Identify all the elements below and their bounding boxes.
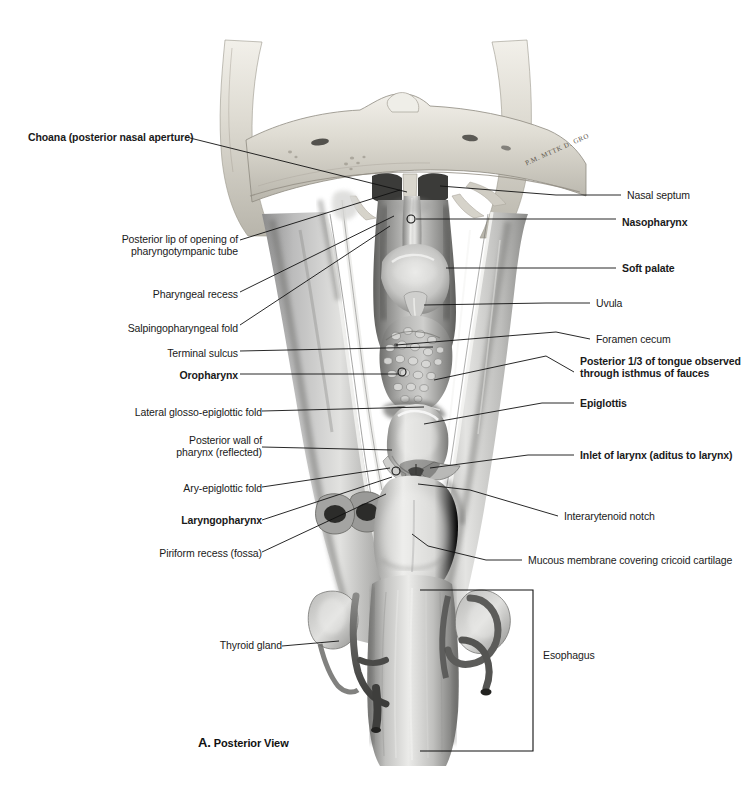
artist-signature: P.M. MTTK D. GRO (524, 132, 590, 167)
leader-lines (0, 0, 748, 792)
leader-pharyngotympanic (240, 190, 400, 240)
soft-palate-group (381, 244, 450, 322)
leader-posterior-wall (262, 447, 392, 450)
anatomy-plate: Choana (posterior nasal aperture) Poster… (0, 0, 748, 792)
marker-laryngopharynx (392, 467, 400, 475)
label-ary-epiglottic-fold[interactable]: Ary-epiglottic fold (152, 482, 262, 494)
leader-laryngopharynx (262, 477, 392, 520)
label-lateral-glosso-epiglottic-fold[interactable]: Lateral glosso-epiglottic fold (118, 406, 262, 418)
tongue-group (380, 316, 453, 412)
leader-posterior-third-inner (434, 356, 546, 380)
marker-nasopharynx (407, 215, 415, 223)
leader-uvula-inner (424, 303, 546, 305)
leader-mucous-membrane-tick (412, 534, 428, 546)
leader-lateral-glosso (262, 407, 424, 411)
vallecula-group (380, 400, 446, 420)
skull-base-group (220, 40, 586, 238)
laryngeal-inlet-group (383, 456, 460, 486)
label-pharyngeal-recess[interactable]: Pharyngeal recess (118, 288, 238, 300)
label-thyroid-gland[interactable]: Thyroid gland (198, 639, 282, 651)
caption-letter: A. (198, 735, 211, 750)
label-soft-palate[interactable]: Soft palate (622, 262, 675, 274)
label-uvula[interactable]: Uvula (596, 297, 622, 309)
caption-text: Posterior View (211, 737, 289, 749)
marker-oropharynx (398, 368, 406, 376)
label-pharyngotympanic-tube[interactable]: Posterior lip of opening of pharyngotymp… (112, 233, 238, 258)
leader-nasal-septum-inner (440, 186, 556, 195)
leader-interarytenoid (470, 490, 558, 516)
label-salpingopharyngeal-fold[interactable]: Salpingopharyngeal fold (98, 322, 238, 334)
leader-terminal-sulcus (240, 347, 433, 351)
leader-foramen-cecum-inner (396, 332, 556, 345)
label-mucous-membrane-cricoid[interactable]: Mucous membrane covering cricoid cartila… (528, 554, 732, 566)
label-piriform-recess[interactable]: Piriform recess (fossa) (128, 547, 262, 559)
leader-ary-epiglottic (262, 468, 390, 487)
label-choana[interactable]: Choana (posterior nasal aperture) (28, 131, 186, 143)
leader-choana (186, 137, 407, 192)
label-foramen-cecum[interactable]: Foramen cecum (596, 333, 671, 345)
salpingopharyngeal-fold-group (320, 190, 382, 490)
leader-mucous-membrane-inner (428, 546, 486, 560)
leader-pharyngeal-recess (240, 216, 394, 292)
epiglottis-group (387, 404, 448, 479)
label-terminal-sulcus[interactable]: Terminal sulcus (128, 347, 238, 359)
pharynx-illustration (0, 0, 748, 792)
lower-tract-group (308, 575, 510, 766)
plate-caption: A. Posterior View (198, 735, 289, 750)
label-laryngopharynx[interactable]: Laryngopharynx (152, 514, 262, 526)
leader-thyroid-gland (282, 641, 339, 646)
cricoid-group (374, 476, 458, 601)
leader-salpingopharyngeal (240, 226, 390, 325)
leader-interarytenoid-inner (418, 484, 470, 490)
pharyngeal-wall-group (262, 212, 528, 656)
label-nasopharynx[interactable]: Nasopharynx (622, 216, 687, 228)
label-inlet-of-larynx[interactable]: Inlet of larynx (aditus to larynx) (580, 449, 732, 461)
leader-piriform (262, 494, 386, 552)
leader-epiglottis-inner (424, 403, 542, 424)
label-interarytenoid-notch[interactable]: Interarytenoid notch (564, 510, 655, 522)
label-oropharynx[interactable]: Oropharynx (148, 369, 238, 381)
esophagus-bracket (420, 590, 533, 751)
label-esophagus[interactable]: Esophagus (543, 649, 595, 661)
label-nasal-septum[interactable]: Nasal septum (627, 189, 690, 201)
label-epiglottis[interactable]: Epiglottis (580, 397, 627, 409)
nasopharynx-group (373, 196, 456, 366)
leader-posterior-third (546, 356, 574, 372)
piriform-recess-group (316, 480, 463, 534)
label-posterior-third-of-tongue[interactable]: Posterior 1/3 of tongue observed through… (580, 355, 746, 380)
leader-foramen-cecum (556, 332, 590, 339)
leader-inlet-inner (430, 455, 528, 468)
label-posterior-wall-of-pharynx[interactable]: Posterior wall of pharynx (reflected) (150, 434, 262, 459)
